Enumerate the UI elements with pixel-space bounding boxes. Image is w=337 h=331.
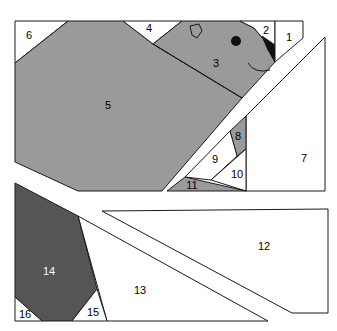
paper-piecing-diagram: 1 2 3 4 5 6 7 8 9 10 11 12 13 14 15 16 xyxy=(0,0,337,331)
label-16: 16 xyxy=(19,308,31,320)
piece-14 xyxy=(15,183,97,321)
label-3: 3 xyxy=(213,57,219,69)
label-13: 13 xyxy=(134,284,146,296)
label-12: 12 xyxy=(258,240,270,252)
label-1: 1 xyxy=(286,31,292,43)
label-2: 2 xyxy=(263,24,269,36)
label-14: 14 xyxy=(43,265,55,277)
label-9: 9 xyxy=(212,153,218,165)
label-5: 5 xyxy=(105,99,111,111)
label-7: 7 xyxy=(301,152,307,164)
label-11: 11 xyxy=(186,179,197,191)
label-6: 6 xyxy=(26,29,32,41)
label-8: 8 xyxy=(235,130,241,142)
label-4: 4 xyxy=(146,22,152,34)
eye xyxy=(231,36,241,46)
label-10: 10 xyxy=(231,168,243,180)
label-15: 15 xyxy=(87,306,99,318)
